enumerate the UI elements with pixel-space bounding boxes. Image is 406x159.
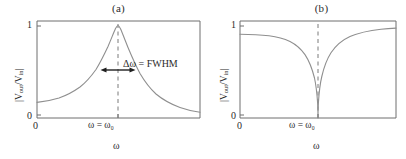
panel-b-y-axis-label-pre: |V xyxy=(219,93,229,102)
panel-a-y-axis-label-mid: /V xyxy=(14,75,24,85)
panel-a-y-axis-label-pre: |V xyxy=(14,93,24,102)
panel-a-x-axis-label: ω xyxy=(113,140,120,151)
panel-a-y-tick-0: 0 xyxy=(27,110,32,121)
panel-a-y-axis-label-sub-in: in xyxy=(17,70,24,75)
panel-a-x-tick-resonance: ω = ω₀ xyxy=(88,120,114,130)
panel-b-y-axis-label-sub-in: in xyxy=(222,70,229,75)
panel-b-y-tick-1: 1 xyxy=(231,19,236,30)
panel-b-x-tick-origin: 0 xyxy=(237,120,242,131)
panel-b-x-tick-resonance: ω = ω₀ xyxy=(289,120,315,130)
panel-b-y-axis-label-mid: /V xyxy=(219,75,229,85)
panel-a-x-tick-origin: 0 xyxy=(33,120,38,131)
panel-b-x-axis-label: ω xyxy=(313,140,320,151)
panel-b-y-axis-label: |Vout/Vin| xyxy=(219,69,229,102)
panel-a-y-tick-1: 1 xyxy=(27,19,32,30)
panel-a-y-axis-label-post: | xyxy=(14,69,24,71)
panel-b: (b) |Vout/Vin| 1 0 0 ω = ω₀ ω xyxy=(203,0,406,159)
panel-b-y-tick-0: 0 xyxy=(231,110,236,121)
figure-container: (a) xyxy=(0,0,406,159)
panel-a: (a) xyxy=(0,0,203,159)
panel-a-y-axis-label: |Vout/Vin| xyxy=(14,69,24,102)
panel-a-y-axis-label-sub-out: out xyxy=(17,85,24,93)
panel-a-fwhm-label: Δω = FWHM xyxy=(123,58,178,69)
panel-b-y-axis-label-post: | xyxy=(219,69,229,71)
panel-b-y-ticks xyxy=(240,26,244,115)
panel-b-y-axis-label-sub-out: out xyxy=(222,85,229,93)
